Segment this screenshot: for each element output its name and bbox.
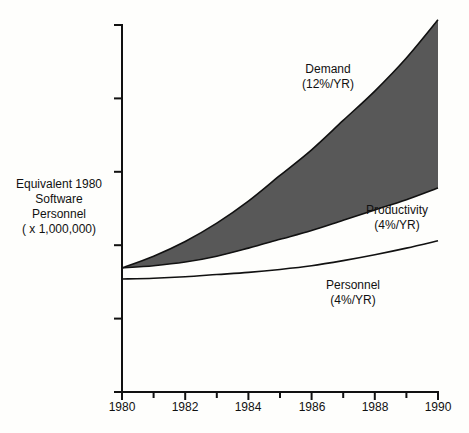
x-ticks bbox=[122, 392, 438, 400]
demand-rate: (12%/YR) bbox=[302, 77, 354, 92]
productivity-label: Productivity bbox=[366, 203, 428, 218]
x-tick-label: 1982 bbox=[165, 400, 205, 414]
personnel-label: Personnel bbox=[326, 278, 380, 293]
y-axis-label-line: Equivalent 1980 bbox=[0, 177, 118, 192]
demand-annotation: Demand (12%/YR) bbox=[302, 62, 354, 92]
y-axis-label: Equivalent 1980 Software Personnel ( x 1… bbox=[0, 177, 118, 237]
x-tick-label: 1988 bbox=[355, 400, 395, 414]
x-tick-label: 1986 bbox=[292, 400, 332, 414]
y-axis-label-line: ( x 1,000,000) bbox=[0, 222, 118, 237]
personnel-rate: (4%/YR) bbox=[326, 293, 380, 308]
personnel-annotation: Personnel (4%/YR) bbox=[326, 278, 380, 308]
x-tick-label: 1990 bbox=[418, 400, 458, 414]
productivity-annotation: Productivity (4%/YR) bbox=[366, 203, 428, 233]
x-tick-label: 1984 bbox=[228, 400, 268, 414]
x-tick-label: 1980 bbox=[102, 400, 142, 414]
demand-label: Demand bbox=[302, 62, 354, 77]
y-axis-label-line: Personnel bbox=[0, 207, 118, 222]
productivity-rate: (4%/YR) bbox=[366, 218, 428, 233]
y-axis-label-line: Software bbox=[0, 192, 118, 207]
